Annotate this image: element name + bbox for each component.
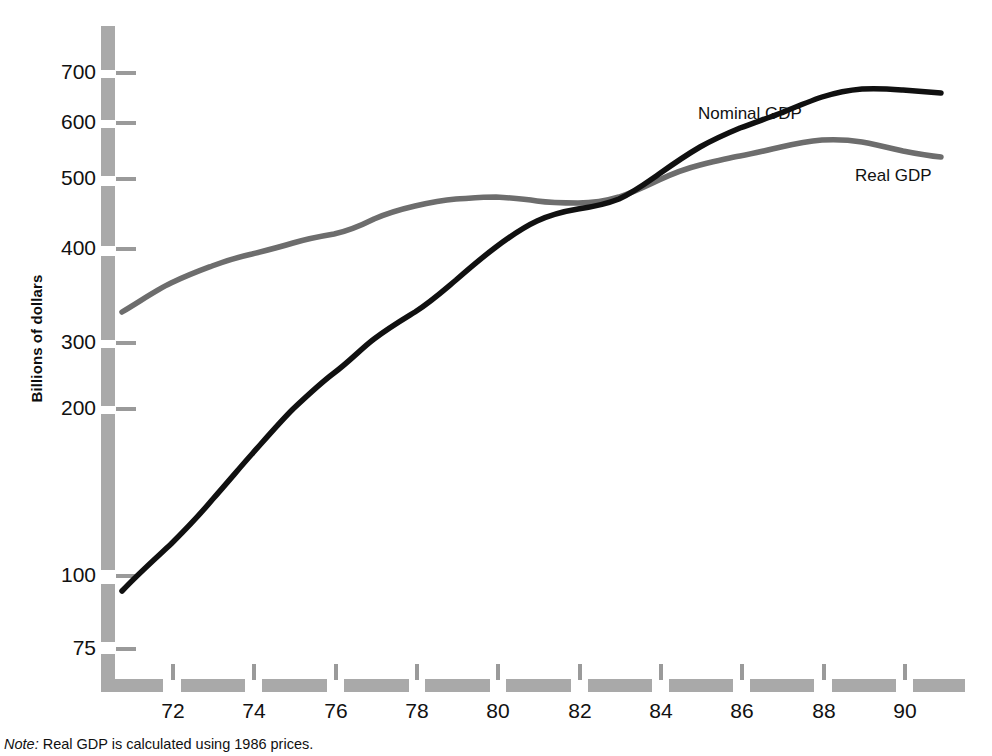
y-tick-label-700: 700 bbox=[32, 61, 96, 82]
y-tick-marks bbox=[116, 71, 136, 651]
x-tick-label-90: 90 bbox=[875, 700, 935, 721]
x-tick-label-72: 72 bbox=[143, 700, 203, 721]
x-tick-label-80: 80 bbox=[468, 700, 528, 721]
y-axis-bar bbox=[101, 26, 115, 692]
x-tick-label-88: 88 bbox=[794, 700, 854, 721]
y-tick-label-100: 100 bbox=[32, 564, 96, 585]
plot-area bbox=[0, 0, 992, 756]
x-tick-label-74: 74 bbox=[224, 700, 284, 721]
y-tick-label-500: 500 bbox=[32, 167, 96, 188]
x-tick-label-84: 84 bbox=[631, 700, 691, 721]
y-tick-label-300: 300 bbox=[32, 331, 96, 352]
x-tick-label-76: 76 bbox=[306, 700, 366, 721]
series-label-real-gdp: Real GDP bbox=[855, 166, 932, 186]
x-tick-marks bbox=[171, 664, 907, 680]
y-tick-label-75: 75 bbox=[32, 637, 96, 658]
gdp-chart: Billions of dollars bbox=[0, 0, 992, 756]
y-tick-label-400: 400 bbox=[32, 237, 96, 258]
chart-note: Note: Real GDP is calculated using 1986 … bbox=[4, 736, 313, 752]
note-prefix: Note: bbox=[4, 736, 39, 752]
series-label-nominal-gdp: Nominal GDP bbox=[698, 104, 802, 124]
x-axis-bar bbox=[101, 679, 965, 692]
note-text: Real GDP is calculated using 1986 prices… bbox=[43, 736, 314, 752]
y-tick-label-600: 600 bbox=[32, 111, 96, 132]
x-tick-label-78: 78 bbox=[387, 700, 447, 721]
y-tick-label-200: 200 bbox=[32, 397, 96, 418]
x-tick-label-82: 82 bbox=[550, 700, 610, 721]
series-line-nominal-gdp bbox=[122, 89, 941, 591]
x-tick-label-86: 86 bbox=[712, 700, 772, 721]
